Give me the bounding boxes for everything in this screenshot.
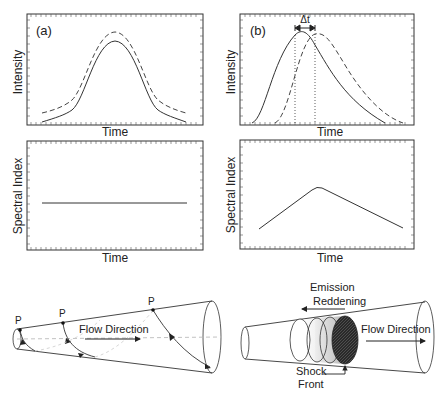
emission-label: Emission [310,281,355,293]
figure: (a) Intensity Time Δt (b) Intensity Time [0,0,443,399]
b-top-ylabel: Intensity [224,50,238,95]
front-label: Front [298,378,324,390]
point-label-1: P [15,315,22,326]
delta-t-label: Δt [300,14,310,25]
a-top-xlabel: Time [102,125,129,139]
b-bottom-xlabel: Time [317,251,344,265]
b-bottom-ylabel: Spectral Index [224,157,238,234]
panel-b-spectral: Spectral Index Time [224,140,414,265]
panel-b-label: (b) [250,23,266,38]
reddening-label: Reddening [313,295,366,307]
panel-b-intensity: Δt (b) Intensity Time [224,14,414,139]
flow-direction-left: Flow Direction [79,323,149,335]
point-label-3: P [148,296,155,307]
jet-diagram-right: Emission Reddening Flow Direction Shock … [241,281,434,390]
panel-a-label: (a) [36,23,52,38]
a-top-ylabel: Intensity [11,50,25,95]
b-top-xlabel: Time [317,125,344,139]
jet-diagram-left: P P P Flow Direction [13,296,222,373]
a-bottom-ylabel: Spectral Index [11,158,25,235]
flow-direction-right: Flow Direction [361,323,431,335]
panel-a-spectral: Spectral Index Time [11,141,203,265]
panel-a-intensity: (a) Intensity Time [11,14,203,139]
shock-label: Shock [296,365,327,377]
point-label-2: P [59,308,66,319]
a-bottom-xlabel: Time [102,251,129,265]
